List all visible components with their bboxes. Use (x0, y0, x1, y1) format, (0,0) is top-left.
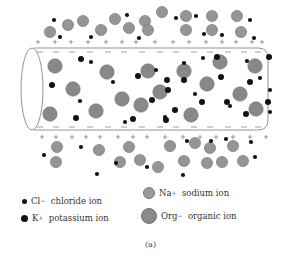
sodium-ion (109, 13, 120, 24)
chloride-ion (185, 139, 189, 143)
sodium-ion (178, 155, 189, 166)
legend-sodium: Na+ sodium ion (143, 187, 229, 199)
organic-ion (248, 59, 262, 73)
chloride-ion (137, 36, 141, 40)
sodium-ion (77, 15, 88, 26)
chloride-ion (79, 145, 83, 149)
organic-ion (115, 92, 129, 106)
potassium-ion (218, 74, 224, 80)
potassium-ion (265, 99, 271, 105)
organic-ion-icon (141, 208, 157, 224)
sodium-ion (93, 144, 104, 155)
chloride-ion (182, 61, 186, 65)
sodium-ion (51, 141, 62, 152)
legend-chloride-name: chloride ion (51, 196, 102, 206)
sodium-ion (134, 154, 145, 165)
legend-organic: Org− organic ion (141, 208, 237, 224)
sodium-ion (123, 22, 134, 33)
organic-ion (233, 87, 247, 101)
chloride-ion (111, 80, 115, 84)
legend-sodium-symbol: Na (159, 188, 172, 198)
organic-ion (141, 64, 155, 78)
chloride-ion (78, 99, 82, 103)
chloride-ion (201, 56, 205, 60)
organic-ion (48, 59, 62, 73)
axon-cross-section (21, 48, 43, 130)
legend-sodium-name: sodium ion (182, 188, 229, 198)
potassium-ion (199, 99, 205, 105)
chloride-ion (194, 14, 198, 18)
potassium-ion (49, 82, 55, 88)
chloride-ion (125, 13, 129, 17)
sodium-ion (123, 141, 134, 152)
potassium-ion (172, 107, 178, 113)
sodium-ion (204, 142, 215, 153)
organic-ion (200, 77, 214, 91)
potassium-ion (165, 87, 171, 93)
ion-particles (42, 6, 272, 177)
potassium-ion (163, 117, 169, 123)
sodium-ion (62, 19, 73, 30)
organic-ion (89, 104, 103, 118)
sodium-ion (206, 24, 217, 35)
potassium-ion (164, 77, 170, 83)
chloride-ion (258, 76, 262, 80)
organic-ion (134, 98, 148, 112)
chloride-ion (123, 120, 127, 124)
legend-organic-symbol: Org (161, 211, 177, 221)
organic-ion (43, 107, 57, 121)
chloride-ion (202, 32, 206, 36)
sodium-ion (156, 6, 167, 17)
sodium-ion (227, 140, 238, 151)
potassium-ion (130, 116, 136, 122)
chloride-ion (174, 16, 178, 20)
sodium-ion (189, 137, 200, 148)
potassium-ion-icon (21, 215, 28, 222)
chloride-ion (95, 172, 99, 176)
organic-ion (249, 102, 263, 116)
sodium-ion (164, 140, 175, 151)
organic-ion (177, 64, 191, 78)
potassium-ion (224, 99, 230, 105)
sodium-ion (201, 157, 212, 168)
chloride-ion (42, 153, 46, 157)
chloride-ion (224, 137, 228, 141)
potassium-ion (181, 77, 187, 83)
sodium-ion (180, 24, 191, 35)
chloride-ion (249, 140, 253, 144)
sodium-ion (152, 161, 163, 172)
potassium-ion (214, 54, 220, 60)
sodium-ion (237, 155, 248, 166)
figure-caption: (a) (145, 240, 156, 249)
chloride-ion (253, 155, 257, 159)
chloride-ion (114, 161, 118, 165)
chloride-ion (268, 88, 272, 92)
legend-chloride-symbol: Cl (31, 196, 40, 206)
potassium-ion (247, 79, 253, 85)
chloride-ion (58, 35, 62, 39)
potassium-ion (78, 56, 84, 62)
chloride-ion (252, 36, 256, 40)
sodium-ion (231, 10, 242, 21)
sodium-ion (180, 10, 191, 21)
sodium-ion (44, 26, 55, 37)
organic-ion (100, 65, 114, 79)
sodium-ion (206, 10, 217, 21)
legend-chloride: Cl− chloride ion (22, 196, 102, 206)
chloride-ion (181, 173, 185, 177)
chloride-ion (145, 165, 149, 169)
chloride-ion (89, 35, 93, 39)
axon-end-cap (21, 48, 43, 130)
potassium-ion (149, 97, 155, 103)
chloride-ion (209, 139, 213, 143)
chloride-ion (245, 59, 249, 63)
potassium-ion (73, 115, 79, 121)
sodium-ion (235, 26, 246, 37)
potassium-ion (243, 111, 249, 117)
chloride-ion-icon (22, 199, 27, 204)
potassium-ion (266, 54, 272, 60)
chloride-ion (248, 18, 252, 22)
chloride-ion (89, 60, 93, 64)
legend-potassium-name: potassium ion (49, 213, 109, 223)
organic-ion (184, 108, 198, 122)
